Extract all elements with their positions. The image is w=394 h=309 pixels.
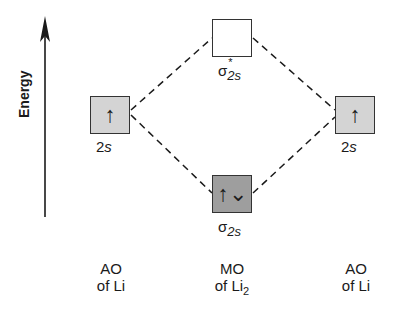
sigma-star-label: σ*2s — [218, 62, 241, 83]
dash-left-to-bonding — [131, 115, 212, 193]
spin-up-arrow-icon: ↑ — [350, 102, 361, 128]
sigma-star-2s-box — [212, 19, 252, 57]
sigma-label: σ2s — [218, 218, 241, 239]
spin-up-down-arrows-icon: ↑⌄ — [218, 181, 247, 207]
right-column-label: AO of Li — [321, 260, 391, 294]
right-ao-2s-box: ↑ — [335, 96, 375, 134]
left-ao-label: 2s — [96, 138, 112, 155]
middle-column-label: MO of Li2 — [197, 260, 267, 300]
right-ao-label: 2s — [341, 138, 357, 155]
sigma-2s-box: ↑⌄ — [212, 175, 252, 213]
spin-up-arrow-icon: ↑ — [105, 102, 116, 128]
left-ao-2s-box: ↑ — [90, 96, 130, 134]
dash-bonding-to-right — [253, 117, 335, 193]
energy-axis-label: Energy — [16, 71, 32, 118]
left-column-label: AO of Li — [76, 260, 146, 294]
dash-antibonding-to-right — [253, 38, 335, 110]
dash-left-to-antibonding — [131, 38, 212, 110]
